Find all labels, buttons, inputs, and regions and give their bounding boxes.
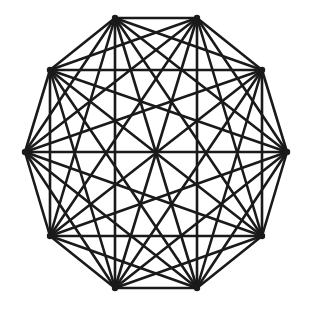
graph-vertex bbox=[194, 15, 200, 21]
graph-vertex bbox=[259, 67, 265, 73]
graph-vertex bbox=[112, 285, 118, 291]
graph-vertex bbox=[47, 67, 53, 73]
graph-vertex bbox=[259, 233, 265, 239]
graph-vertex bbox=[284, 149, 290, 155]
graph-vertex bbox=[22, 149, 28, 155]
complete-graph-figure bbox=[0, 0, 309, 311]
graph-vertex bbox=[194, 285, 200, 291]
graph-vertex bbox=[112, 15, 118, 21]
graph-vertex bbox=[47, 233, 53, 239]
